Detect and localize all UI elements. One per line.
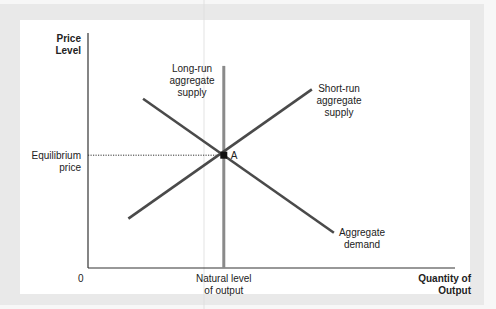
long-run-aggregate-supply-label: Long-runaggregatesupply [169,63,214,98]
axes [88,33,455,268]
natural-level-of-output-label-line: Natural level [196,273,252,284]
aggregate-supply-demand-chart: APriceLevelQuantity ofOutput0Equilibrium… [0,0,496,309]
aggregate-demand-label-line: Aggregate [339,227,386,238]
equilibrium-point-a [220,152,227,159]
y-axis-title: PriceLevel [55,33,81,56]
x-axis-title: Quantity ofOutput [418,273,471,296]
short-run-aggregate-supply-label-line: Short-run [318,83,360,94]
labels: APriceLevelQuantity ofOutput0Equilibrium… [32,33,472,296]
aggregate-demand-label: Aggregatedemand [339,227,386,250]
long-run-aggregate-supply-label-line: supply [178,87,207,98]
equilibrium-price-label: Equilibriumprice [32,150,82,173]
curves [128,66,334,268]
aggregate-demand-curve [143,99,334,233]
long-run-aggregate-supply-label-line: Long-run [172,63,212,74]
origin-label: 0 [78,273,84,284]
natural-level-of-output-label: Natural levelof output [196,273,252,296]
x-axis-title-line: Quantity of [418,273,471,284]
x-axis-title-line: Output [438,285,471,296]
equilibrium-price-label-line: price [59,162,81,173]
equilibrium-price-label-line: Equilibrium [32,150,81,161]
y-axis-title-line: Price [57,33,82,44]
equilibrium-label-a: A [231,150,238,161]
long-run-aggregate-supply-label-line: aggregate [169,75,214,86]
short-run-aggregate-supply-label: Short-runaggregatesupply [316,83,361,118]
short-run-aggregate-supply-label-line: aggregate [316,95,361,106]
short-run-aggregate-supply-label-line: supply [325,107,354,118]
natural-level-of-output-label-line: of output [204,285,243,296]
y-axis-title-line: Level [55,45,81,56]
aggregate-demand-label-line: demand [344,239,380,250]
